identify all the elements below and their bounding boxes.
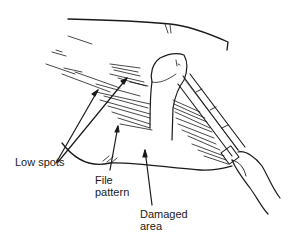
label-low-spots: Low spots xyxy=(15,156,65,168)
body-file-tool xyxy=(178,74,245,164)
label-file-pattern: File pattern xyxy=(95,174,129,198)
label-damaged-area-line2: area xyxy=(140,220,188,232)
arrow-low-spots xyxy=(56,78,127,163)
label-low-spots-text: Low spots xyxy=(15,156,65,168)
panel-top-edge xyxy=(68,19,228,50)
label-damaged-area-line1: Damaged xyxy=(140,208,188,220)
arrow-damaged-area xyxy=(143,150,152,205)
upper-hand xyxy=(150,54,187,140)
label-damaged-area: Damaged area xyxy=(140,208,188,232)
file-pattern-hatching xyxy=(46,36,152,130)
label-file-pattern-line1: File xyxy=(95,174,129,186)
illustration xyxy=(0,0,295,240)
panel-shading-right xyxy=(173,100,228,164)
lower-hand xyxy=(232,152,280,214)
label-file-pattern-line2: pattern xyxy=(95,186,129,198)
